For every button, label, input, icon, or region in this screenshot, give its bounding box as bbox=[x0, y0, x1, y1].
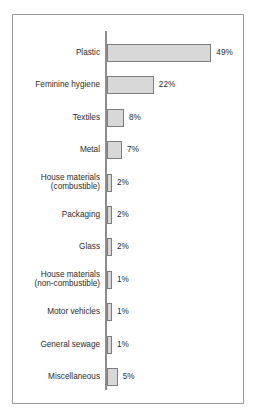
bar bbox=[107, 303, 112, 321]
value-label: 8% bbox=[129, 113, 141, 123]
bar-row: General sewage1% bbox=[0, 334, 257, 356]
value-label: 2% bbox=[117, 210, 129, 220]
category-label: Glass bbox=[4, 242, 100, 252]
category-label: Metal bbox=[4, 145, 100, 155]
category-label: Motor vehicles bbox=[4, 307, 100, 317]
bar bbox=[107, 141, 122, 159]
category-label: House materials (non-combustible) bbox=[4, 270, 100, 289]
value-label: 1% bbox=[117, 340, 129, 350]
bar-row: Packaging2% bbox=[0, 204, 257, 226]
value-label: 49% bbox=[216, 48, 232, 58]
category-label: Feminine hygiene bbox=[4, 80, 100, 90]
bar bbox=[107, 336, 112, 354]
category-label: Miscellaneous bbox=[4, 372, 100, 382]
category-label: Plastic bbox=[4, 48, 100, 58]
plot-area: Plastic49%Feminine hygiene22%Textiles8%M… bbox=[0, 0, 257, 420]
bar-row: Miscellaneous5% bbox=[0, 366, 257, 388]
category-label: Packaging bbox=[4, 210, 100, 220]
bar bbox=[107, 271, 112, 289]
category-label: General sewage bbox=[4, 340, 100, 350]
bar-row: Textiles8% bbox=[0, 107, 257, 129]
bar bbox=[107, 206, 112, 224]
bar bbox=[107, 76, 154, 94]
value-label: 7% bbox=[127, 145, 139, 155]
value-label: 2% bbox=[117, 178, 129, 188]
bar-row: Glass2% bbox=[0, 236, 257, 258]
bar-row: Plastic49% bbox=[0, 42, 257, 64]
bar bbox=[107, 368, 118, 386]
bar-row: House materials (combustible)2% bbox=[0, 172, 257, 194]
value-label: 2% bbox=[117, 242, 129, 252]
bar bbox=[107, 238, 112, 256]
category-label: Textiles bbox=[4, 113, 100, 123]
bar bbox=[107, 109, 124, 127]
value-label: 1% bbox=[117, 307, 129, 317]
value-label: 5% bbox=[123, 372, 135, 382]
bar-row: Feminine hygiene22% bbox=[0, 74, 257, 96]
value-label: 1% bbox=[117, 275, 129, 285]
bar-row: Motor vehicles1% bbox=[0, 301, 257, 323]
bar-row: Metal7% bbox=[0, 139, 257, 161]
bar bbox=[107, 174, 112, 192]
category-label: House materials (combustible) bbox=[4, 173, 100, 192]
figure: Plastic49%Feminine hygiene22%Textiles8%M… bbox=[0, 0, 257, 420]
bar bbox=[107, 44, 211, 62]
bar-row: House materials (non-combustible)1% bbox=[0, 269, 257, 291]
value-label: 22% bbox=[159, 80, 175, 90]
